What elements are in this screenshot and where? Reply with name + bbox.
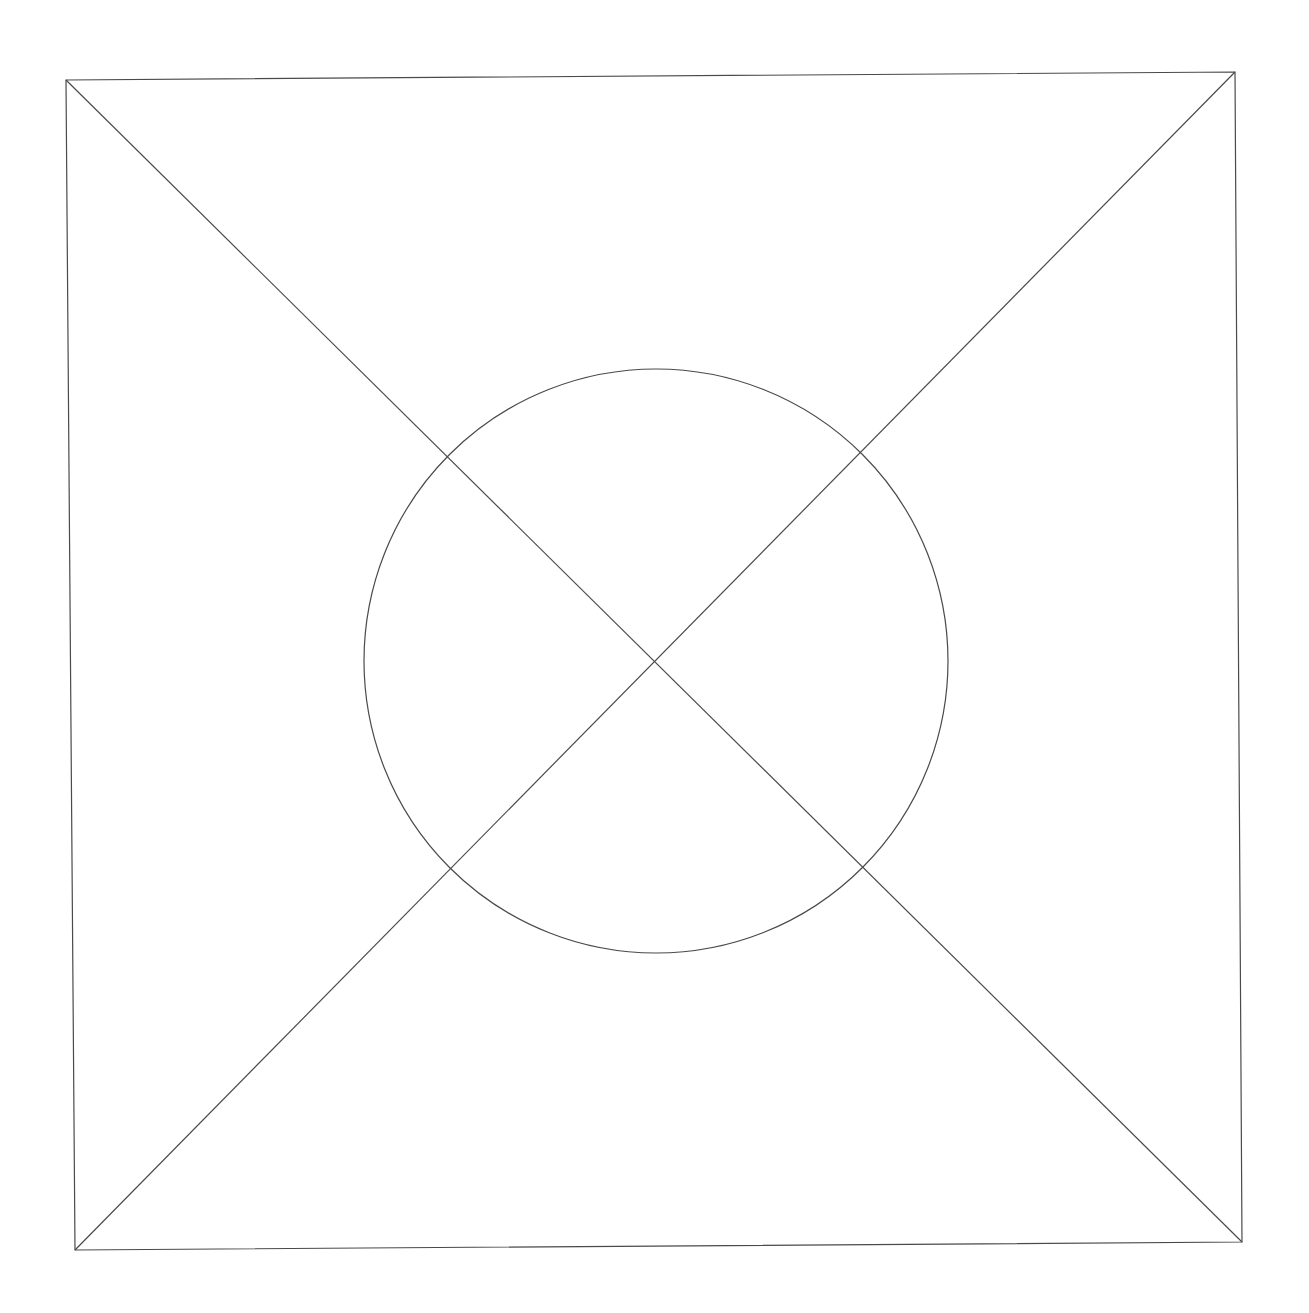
- placeholder-diagram: [0, 0, 1309, 1313]
- diagonal-line-top-right-to-bottom-left: [75, 72, 1235, 1250]
- placeholder-image-icon: [0, 0, 1309, 1313]
- diagonal-line-top-left-to-bottom-right: [66, 80, 1242, 1242]
